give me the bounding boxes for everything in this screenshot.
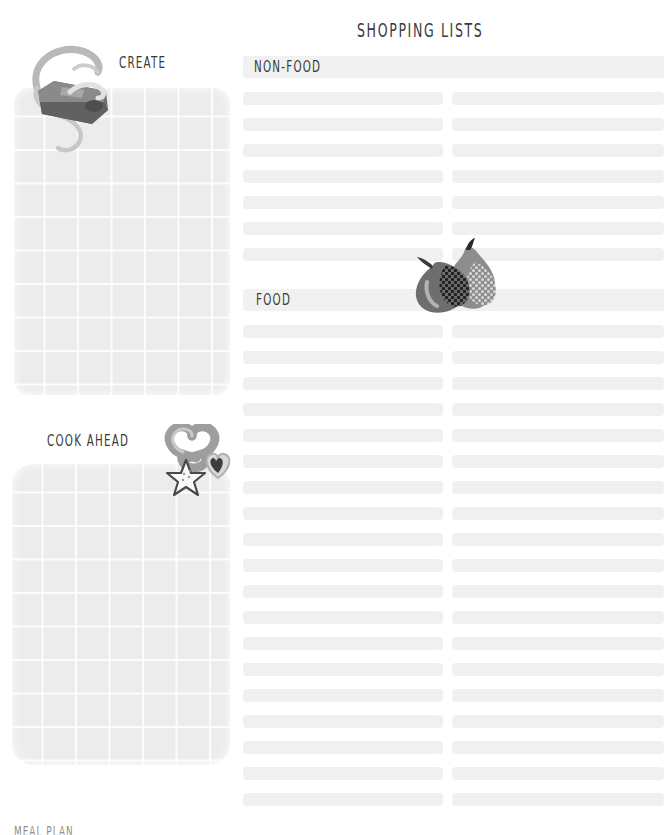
list-row-left[interactable] xyxy=(243,611,443,624)
list-row-left[interactable] xyxy=(243,377,443,390)
list-row-right[interactable] xyxy=(452,248,664,261)
list-row-left[interactable] xyxy=(243,689,443,702)
list-row-right[interactable] xyxy=(452,559,664,572)
list-row-left[interactable] xyxy=(243,196,443,209)
list-row-right[interactable] xyxy=(452,793,664,806)
list-row-left[interactable] xyxy=(243,455,443,468)
list-row-right[interactable] xyxy=(452,637,664,650)
list-row-left[interactable] xyxy=(243,637,443,650)
list-row-left[interactable] xyxy=(243,92,443,105)
list-row-right[interactable] xyxy=(452,715,664,728)
list-row-right[interactable] xyxy=(452,170,664,183)
list-row-right[interactable] xyxy=(452,455,664,468)
non-food-heading: NON-FOOD xyxy=(254,57,321,76)
list-row-left[interactable] xyxy=(243,325,443,338)
list-row-right[interactable] xyxy=(452,741,664,754)
list-row-left[interactable] xyxy=(243,767,443,780)
list-row-left[interactable] xyxy=(243,429,443,442)
list-row-right[interactable] xyxy=(452,767,664,780)
list-row-right[interactable] xyxy=(452,351,664,364)
list-row-left[interactable] xyxy=(243,507,443,520)
list-row-left[interactable] xyxy=(243,222,443,235)
list-row-left[interactable] xyxy=(243,144,443,157)
list-row-right[interactable] xyxy=(452,585,664,598)
list-row-left[interactable] xyxy=(243,741,443,754)
list-row-right[interactable] xyxy=(452,481,664,494)
list-row-left[interactable] xyxy=(243,403,443,416)
list-row-left[interactable] xyxy=(243,793,443,806)
list-row-right[interactable] xyxy=(452,144,664,157)
list-row-right[interactable] xyxy=(452,403,664,416)
list-row-left[interactable] xyxy=(243,533,443,546)
list-row-right[interactable] xyxy=(452,611,664,624)
list-row-left[interactable] xyxy=(243,481,443,494)
list-row-right[interactable] xyxy=(452,507,664,520)
list-row-right[interactable] xyxy=(452,196,664,209)
list-row-right[interactable] xyxy=(452,222,664,235)
list-row-left[interactable] xyxy=(243,351,443,364)
list-row-left[interactable] xyxy=(243,585,443,598)
list-row-right[interactable] xyxy=(452,689,664,702)
footer-note: MEAL PLAN xyxy=(14,823,74,835)
list-row-right[interactable] xyxy=(452,325,664,338)
list-row-right[interactable] xyxy=(452,533,664,546)
list-row-left[interactable] xyxy=(243,170,443,183)
list-row-left[interactable] xyxy=(243,663,443,676)
list-row-left[interactable] xyxy=(243,559,443,572)
list-row-left[interactable] xyxy=(243,118,443,131)
food-heading: FOOD xyxy=(256,290,291,309)
list-row-right[interactable] xyxy=(452,118,664,131)
list-row-left[interactable] xyxy=(243,248,443,261)
list-row-left[interactable] xyxy=(243,715,443,728)
list-row-right[interactable] xyxy=(452,377,664,390)
list-row-right[interactable] xyxy=(452,663,664,676)
list-row-right[interactable] xyxy=(452,92,664,105)
list-row-right[interactable] xyxy=(452,429,664,442)
